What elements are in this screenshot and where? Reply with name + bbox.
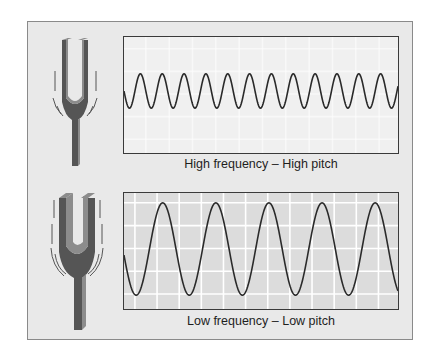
waveform-display-low [123, 192, 399, 310]
tuning-fork-icon-high [45, 36, 105, 172]
waveform-low [124, 193, 398, 309]
tuning-fork-icon-low [42, 190, 108, 338]
caption-low-frequency: Low frequency – Low pitch [123, 314, 399, 328]
waveform-display-high [123, 36, 399, 154]
waveform-high [124, 37, 398, 153]
caption-high-frequency: High frequency – High pitch [123, 157, 399, 171]
